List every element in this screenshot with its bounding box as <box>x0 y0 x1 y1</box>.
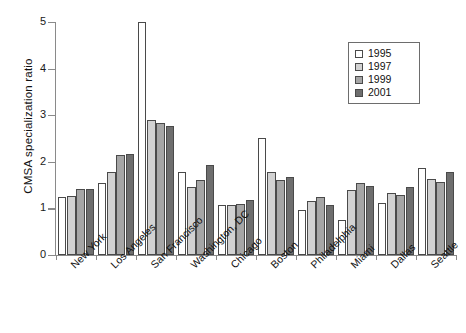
y-tick-label-1: 1 <box>24 202 46 213</box>
bar-1997[interactable] <box>107 172 116 255</box>
legend-label-1997: 1997 <box>368 61 391 72</box>
legend-label-1995: 1995 <box>368 48 391 59</box>
bar-1999[interactable] <box>156 123 165 255</box>
x-tick-10 <box>456 255 457 260</box>
bar-group-san-francisco <box>136 22 176 255</box>
y-tick-label-3: 3 <box>24 109 46 120</box>
y-tick-5 <box>48 22 55 23</box>
y-tick-label-2: 2 <box>24 156 46 167</box>
y-tick-label-0: 0 <box>24 249 46 260</box>
legend-item-1997[interactable]: 1997 <box>355 60 414 73</box>
bar-1997[interactable] <box>307 201 316 255</box>
bar-1995[interactable] <box>418 168 427 255</box>
y-tick-1 <box>48 208 55 209</box>
bar-1999[interactable] <box>116 155 125 255</box>
legend-item-1995[interactable]: 1995 <box>355 47 414 60</box>
x-axis-category-labels: New YorkLos AngelesSan FranciscoWashingt… <box>56 258 456 333</box>
bar-1995[interactable] <box>378 203 387 255</box>
bar-1997[interactable] <box>267 172 276 255</box>
bar-1995[interactable] <box>298 210 307 255</box>
legend-item-1999[interactable]: 1999 <box>355 73 414 86</box>
y-tick-0 <box>48 255 55 256</box>
bar-1995[interactable] <box>58 197 67 255</box>
bar-1999[interactable] <box>276 180 285 255</box>
y-tick-label-4: 4 <box>24 63 46 74</box>
bar-1999[interactable] <box>356 183 365 255</box>
bar-1997[interactable] <box>427 179 436 255</box>
y-tick-4 <box>48 69 55 70</box>
bar-group-new-york <box>56 22 96 255</box>
legend-label-1999: 1999 <box>368 74 391 85</box>
legend-swatch-icon-1999 <box>355 76 363 84</box>
y-tick-2 <box>48 162 55 163</box>
bar-1997[interactable] <box>67 196 76 255</box>
legend-swatch-icon-2001 <box>355 89 363 97</box>
bar-1999[interactable] <box>436 182 445 255</box>
bar-group-philadelphia <box>296 22 336 255</box>
legend-swatch-icon-1997 <box>355 63 363 71</box>
bar-group-boston <box>256 22 296 255</box>
bar-1995[interactable] <box>138 22 147 255</box>
bar-group-seattle <box>416 22 456 255</box>
chart-root: CMSA specialization ratio 543210 New Yor… <box>0 0 466 333</box>
y-tick-label-5: 5 <box>24 16 46 27</box>
legend-label-2001: 2001 <box>368 87 391 98</box>
y-tick-3 <box>48 115 55 116</box>
bar-group-los-angeles <box>96 22 136 255</box>
bar-1997[interactable] <box>387 193 396 255</box>
y-axis-tick-labels: 543210 <box>18 0 46 333</box>
legend-item-2001[interactable]: 2001 <box>355 86 414 99</box>
legend: 1995199719992001 <box>348 42 420 104</box>
legend-swatch-icon-1995 <box>355 50 363 58</box>
